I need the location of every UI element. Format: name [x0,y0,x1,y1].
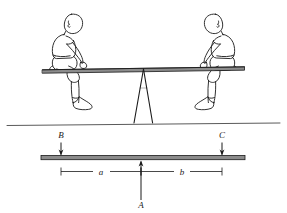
dimension-b-label: b [180,167,185,177]
force-a-label: A [137,200,144,210]
force-b-label: B [58,130,64,140]
figure-canvas: B C A a [0,0,287,213]
figure-background [0,0,287,213]
lever-bar [41,156,245,160]
force-c-label: C [219,130,226,140]
dimension-a-label: a [99,167,104,177]
seesaw-lever-figure: B C A a [0,0,287,213]
